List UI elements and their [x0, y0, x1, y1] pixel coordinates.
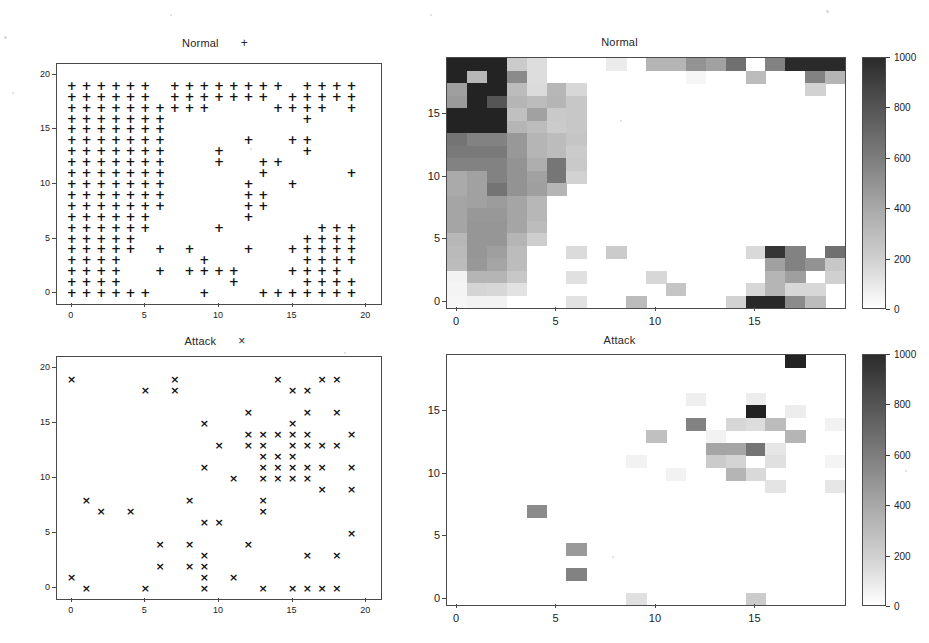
colorbar-tick	[886, 404, 890, 405]
x-tick-label: 20	[360, 605, 370, 615]
cross-marker: ×	[200, 572, 209, 583]
heatmap-cell	[467, 233, 488, 246]
heatmap-cell	[686, 393, 707, 406]
heatmap-cell	[467, 133, 488, 146]
heatmap-cell	[527, 71, 548, 84]
cross-marker: ×	[317, 440, 326, 451]
cross-marker: ×	[141, 583, 150, 594]
cross-marker: ×	[259, 495, 268, 506]
y-tick	[442, 410, 446, 411]
heatmap-cell	[447, 183, 468, 196]
x-tick-label: 0	[453, 612, 459, 624]
colorbar-tick-label: 200	[894, 253, 911, 264]
cross-marker: ×	[273, 429, 282, 440]
x-tick	[555, 307, 556, 311]
x-tick-label: 0	[68, 605, 73, 615]
heatmap-cell	[785, 258, 806, 271]
plus-marker: +	[199, 254, 209, 266]
heatmap-cell	[487, 108, 508, 121]
x-tick-label: 15	[287, 605, 297, 615]
plus-marker: +	[302, 80, 312, 92]
heatmap-cell	[507, 183, 528, 196]
y-tick	[52, 128, 56, 129]
normal-colorbar[interactable]	[862, 57, 886, 309]
heatmap-cell	[447, 158, 468, 171]
heatmap-cell	[726, 468, 747, 481]
heatmap-cell	[566, 246, 587, 259]
colorbar-tick-label: 800	[894, 102, 911, 113]
heatmap-cell	[487, 296, 508, 309]
colorbar-tick-label: 800	[894, 399, 911, 410]
cross-marker: ×	[214, 517, 223, 528]
plus-marker: +	[288, 287, 298, 299]
cross-marker: ×	[259, 473, 268, 484]
heatmap-cell	[447, 121, 468, 134]
cross-marker: ×	[303, 407, 312, 418]
heatmap-cell	[765, 296, 786, 309]
cross-marker: ×	[200, 583, 209, 594]
cross-marker: ×	[332, 374, 341, 385]
heatmap-cell	[765, 480, 786, 493]
x-tick	[555, 604, 556, 608]
scan-speck	[826, 10, 829, 13]
heatmap-cell	[805, 83, 826, 96]
cross-marker: ×	[259, 462, 268, 473]
heatmap-cell	[765, 246, 786, 259]
plus-marker: +	[243, 80, 253, 92]
heatmap-cell	[487, 183, 508, 196]
y-tick	[442, 473, 446, 474]
attack-heatmap-grid[interactable]	[446, 354, 846, 606]
colorbar-tick	[886, 158, 890, 159]
x-tick-label: 15	[748, 315, 760, 327]
heatmap-cell	[507, 108, 528, 121]
heatmap-cell	[487, 121, 508, 134]
colorbar-tick	[886, 107, 890, 108]
plus-marker: +	[317, 222, 327, 234]
heatmap-cell	[547, 83, 568, 96]
colorbar-tick	[886, 606, 890, 607]
heatmap-cell	[646, 430, 667, 443]
normal-scatter-points: ++++++++++++++++++++++++++++++++++++++++…	[57, 64, 381, 304]
heatmap-cell	[706, 455, 727, 468]
plus-marker: +	[155, 102, 165, 114]
heatmap-cell	[626, 593, 647, 606]
x-tick-label: 10	[213, 310, 223, 320]
colorbar-tick-label: 1000	[894, 349, 916, 360]
heatmap-cell	[566, 121, 587, 134]
plus-marker: +	[140, 80, 150, 92]
attack-colorbar[interactable]	[862, 354, 886, 606]
cross-marker: ×	[288, 385, 297, 396]
heatmap-cell	[746, 71, 767, 84]
heatmap-cell	[467, 58, 488, 71]
cross-marker: ×	[200, 517, 209, 528]
y-tick	[52, 292, 56, 293]
heatmap-cell	[527, 233, 548, 246]
heatmap-cell	[487, 271, 508, 284]
cross-marker: ×	[185, 561, 194, 572]
x-tick-label: 20	[360, 310, 370, 320]
normal-heatmap-grid[interactable]	[446, 57, 846, 309]
normal-scatter-axes[interactable]: ++++++++++++++++++++++++++++++++++++++++…	[56, 63, 382, 305]
x-tick	[754, 307, 755, 311]
heatmap-cell	[487, 233, 508, 246]
y-tick-label: 10	[26, 472, 50, 482]
heatmap-cell	[527, 83, 548, 96]
attack-scatter-axes[interactable]: ××××××××××××××××××××××××××××××××××××××××…	[56, 356, 382, 600]
heatmap-cell	[726, 58, 747, 71]
colorbar-tick	[886, 57, 890, 58]
heatmap-cell	[566, 146, 587, 159]
x-tick	[655, 604, 656, 608]
heatmap-cell	[507, 58, 528, 71]
heatmap-cell	[487, 208, 508, 221]
x-tick	[71, 598, 72, 602]
heatmap-cell	[467, 271, 488, 284]
cross-marker: ×	[273, 374, 282, 385]
heatmap-cell	[447, 246, 468, 259]
cross-marker: ×	[200, 561, 209, 572]
cross-marker: ×	[303, 429, 312, 440]
y-tick	[52, 183, 56, 184]
heatmap-cell	[507, 258, 528, 271]
plus-marker: +	[243, 243, 253, 255]
plus-marker: +	[288, 265, 298, 277]
cross-marker: ×	[185, 495, 194, 506]
